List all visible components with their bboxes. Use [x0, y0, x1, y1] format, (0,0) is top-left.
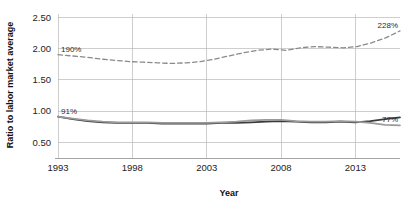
x-tick-2013: 2013: [345, 162, 366, 173]
y-tick-2.00: 2.00: [33, 43, 52, 54]
data-point-labels: 190%228%91%77%: [61, 21, 398, 125]
vertical-gridlines: [58, 14, 355, 158]
y-tick-1.00: 1.00: [33, 105, 52, 116]
end-upper-label: 228%: [378, 21, 398, 30]
series-line-upper-dashed-series: [58, 31, 400, 64]
line-chart: 0.501.001.502.002.50 1993199820032008201…: [0, 0, 406, 206]
x-axis-tick-labels: 19931998200320082013: [47, 162, 366, 173]
x-tick-2008: 2008: [270, 162, 291, 173]
series-line-lower-gray-series: [58, 117, 400, 126]
y-tick-1.50: 1.50: [33, 74, 52, 85]
y-axis-tick-labels: 0.501.001.502.002.50: [33, 12, 52, 148]
chart-canvas: 0.501.001.502.002.50 1993199820032008201…: [0, 0, 406, 206]
x-tick-1998: 1998: [122, 162, 143, 173]
x-tick-1993: 1993: [47, 162, 68, 173]
start-upper-label: 190%: [61, 45, 81, 54]
x-axis-title: Year: [219, 188, 239, 198]
y-axis-title: Ratio to labor market average: [5, 22, 15, 149]
start-lower-label: 91%: [61, 107, 77, 116]
end-lower-label: 77%: [382, 115, 398, 124]
y-tick-0.50: 0.50: [33, 137, 52, 148]
y-tick-2.50: 2.50: [33, 12, 52, 23]
x-tick-2003: 2003: [196, 162, 217, 173]
